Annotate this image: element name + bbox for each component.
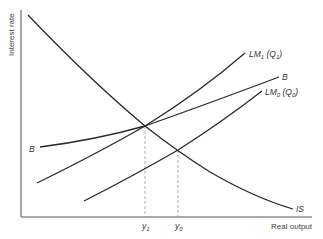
y1-tick-label: y1 bbox=[141, 221, 150, 232]
is-lm-diagram: Interest rate Real output IS LM1 (Q1) B … bbox=[0, 0, 323, 239]
lm1-curve bbox=[37, 53, 245, 183]
b-label-left: B bbox=[29, 144, 35, 154]
is-curve bbox=[28, 15, 293, 209]
y-axis-label: Interest rate bbox=[7, 13, 16, 56]
lm1-label: LM1 (Q1) bbox=[249, 49, 282, 60]
is-label: IS bbox=[296, 204, 304, 214]
x-axis-label: Real output bbox=[271, 222, 313, 231]
lm0-label: LM0 (Q0) bbox=[265, 87, 298, 98]
b-label-right: B bbox=[282, 72, 288, 82]
y0-tick-label: y0 bbox=[174, 221, 183, 232]
